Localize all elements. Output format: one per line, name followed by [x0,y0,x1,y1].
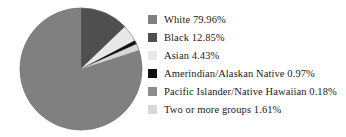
chart-legend: White 79.96% Black 12.85% Asian 4.43% Am… [148,10,344,130]
legend-swatch-two-or-more [148,105,157,114]
pie-slice-group [20,8,142,130]
legend-label-white: White 79.96% [164,14,226,25]
legend-label-pacific-islander: Pacific Islander/Native Hawaiian 0.18% [164,86,337,97]
legend-label-two-or-more: Two or more groups 1.61% [164,104,281,115]
legend-swatch-pacific-islander [148,87,157,96]
pie-svg [19,7,143,131]
legend-item-asian[interactable]: Asian 4.43% [148,46,344,64]
legend-swatch-white [148,15,157,24]
legend-label-black: Black 12.85% [164,32,225,43]
legend-item-pacific-islander[interactable]: Pacific Islander/Native Hawaiian 0.18% [148,82,344,100]
legend-item-amerindian[interactable]: Amerindian/Alaskan Native 0.97% [148,64,344,82]
legend-label-amerindian: Amerindian/Alaskan Native 0.97% [164,68,315,79]
legend-swatch-black [148,33,157,42]
legend-item-two-or-more[interactable]: Two or more groups 1.61% [148,100,344,118]
legend-swatch-amerindian [148,69,157,78]
legend-item-black[interactable]: Black 12.85% [148,28,344,46]
pie-chart-graphic [19,7,143,131]
legend-item-white[interactable]: White 79.96% [148,10,344,28]
legend-swatch-asian [148,51,157,60]
legend-label-asian: Asian 4.43% [164,50,219,61]
pie-chart-figure: White 79.96% Black 12.85% Asian 4.43% Am… [0,0,346,137]
